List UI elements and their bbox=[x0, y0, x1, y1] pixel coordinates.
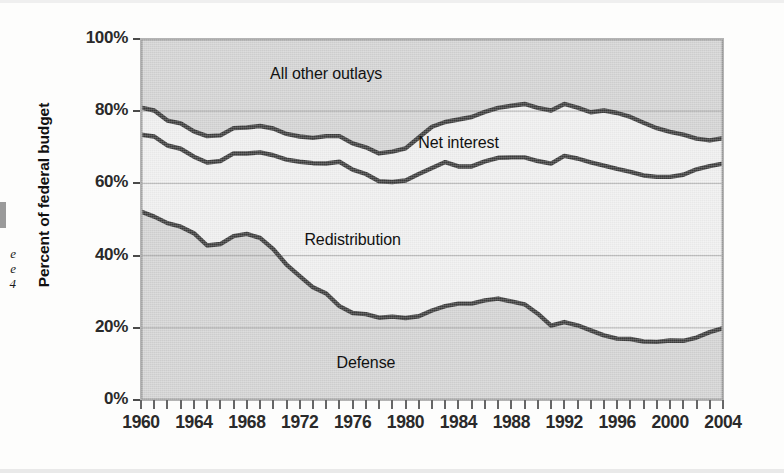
x-tick-label: 2000 bbox=[651, 412, 688, 433]
x-tick-mark bbox=[286, 400, 288, 409]
x-tick-label: 1968 bbox=[228, 412, 265, 433]
y-tick-label: 60% bbox=[36, 172, 128, 192]
x-tick-mark bbox=[471, 400, 473, 409]
y-tick-label: 20% bbox=[36, 317, 128, 337]
x-tick-mark bbox=[669, 400, 671, 409]
x-axis-ticks bbox=[141, 400, 723, 410]
x-tick-mark bbox=[193, 400, 195, 409]
x-tick-mark bbox=[246, 400, 248, 409]
x-tick-mark bbox=[629, 400, 631, 409]
plot-area: All other outlaysNet interestRedistribut… bbox=[141, 39, 723, 400]
x-tick-mark bbox=[577, 400, 579, 409]
x-tick-mark bbox=[431, 400, 433, 409]
chart-figure: e e 4 Percent of federal budget 100%80%6… bbox=[0, 0, 784, 473]
x-tick-mark bbox=[696, 400, 698, 409]
x-tick-mark bbox=[444, 400, 446, 409]
x-tick-mark bbox=[180, 400, 182, 409]
chart-canvas bbox=[141, 39, 723, 400]
x-tick-mark bbox=[405, 400, 407, 409]
y-tick-label: 40% bbox=[36, 245, 128, 265]
x-tick-label: 1972 bbox=[281, 412, 318, 433]
margin-rule bbox=[0, 202, 6, 228]
y-tick-label: 100% bbox=[36, 28, 128, 48]
x-tick-mark bbox=[484, 400, 486, 409]
x-tick-label: 1964 bbox=[175, 412, 212, 433]
x-tick-mark bbox=[682, 400, 684, 409]
series-label-defense: Defense bbox=[336, 354, 395, 372]
x-tick-mark bbox=[206, 400, 208, 409]
series-label-net-interest: Net interest bbox=[418, 134, 499, 152]
y-tick-label: 80% bbox=[36, 100, 128, 120]
x-tick-mark bbox=[709, 400, 711, 409]
x-tick-label: 1980 bbox=[387, 412, 424, 433]
x-tick-label: 1976 bbox=[334, 412, 371, 433]
x-tick-mark bbox=[722, 400, 724, 409]
x-tick-mark bbox=[563, 400, 565, 409]
x-tick-mark bbox=[603, 400, 605, 409]
x-tick-mark bbox=[656, 400, 658, 409]
x-tick-mark bbox=[550, 400, 552, 409]
x-tick-label: 1996 bbox=[599, 412, 636, 433]
x-tick-mark bbox=[312, 400, 314, 409]
x-axis-labels: 1960196419681972197619801984198819921996… bbox=[0, 412, 784, 442]
x-tick-mark bbox=[510, 400, 512, 409]
x-tick-mark bbox=[299, 400, 301, 409]
x-tick-mark bbox=[418, 400, 420, 409]
x-tick-mark bbox=[153, 400, 155, 409]
x-tick-mark bbox=[219, 400, 221, 409]
y-tick-label: 0% bbox=[36, 389, 128, 409]
x-tick-mark bbox=[524, 400, 526, 409]
x-tick-mark bbox=[166, 400, 168, 409]
x-tick-label: 1984 bbox=[440, 412, 477, 433]
x-tick-mark bbox=[643, 400, 645, 409]
x-tick-mark bbox=[140, 400, 142, 409]
margin-note: e e 4 bbox=[0, 246, 16, 291]
x-tick-mark bbox=[391, 400, 393, 409]
x-tick-mark bbox=[537, 400, 539, 409]
y-axis-ticks: 100%80%60%40%20%0% bbox=[36, 0, 128, 473]
series-label-redistribution: Redistribution bbox=[304, 231, 400, 249]
x-tick-mark bbox=[272, 400, 274, 409]
x-tick-mark bbox=[497, 400, 499, 409]
x-tick-mark bbox=[616, 400, 618, 409]
x-tick-label: 1992 bbox=[546, 412, 583, 433]
x-tick-label: 2004 bbox=[704, 412, 741, 433]
x-tick-mark bbox=[457, 400, 459, 409]
series-label-all-other-outlays: All other outlays bbox=[270, 65, 382, 83]
x-tick-mark bbox=[378, 400, 380, 409]
x-tick-mark bbox=[259, 400, 261, 409]
x-tick-label: 1988 bbox=[493, 412, 530, 433]
x-tick-mark bbox=[352, 400, 354, 409]
x-tick-mark bbox=[590, 400, 592, 409]
x-tick-mark bbox=[233, 400, 235, 409]
x-tick-label: 1960 bbox=[122, 412, 159, 433]
x-tick-mark bbox=[365, 400, 367, 409]
x-tick-mark bbox=[338, 400, 340, 409]
x-tick-mark bbox=[325, 400, 327, 409]
